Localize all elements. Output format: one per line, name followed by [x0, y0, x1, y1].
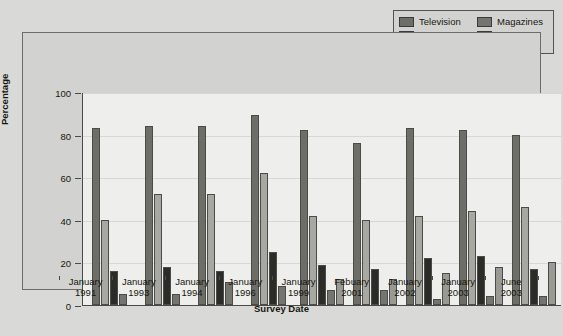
x-axis-tick-label-line: 2003 — [485, 287, 538, 298]
legend-item-label: Magazines — [497, 17, 543, 26]
x-axis-tick-label-line: Febuary — [325, 276, 378, 287]
x-axis-tick-mark — [538, 276, 539, 280]
legend-item-magazines[interactable]: Magazines — [477, 15, 543, 28]
x-axis-tick-label-line: 1999 — [272, 287, 325, 298]
y-axis-tick-mark — [75, 136, 81, 137]
x-axis-tick-label-line: 1991 — [59, 287, 112, 298]
x-axis-tick-mark — [165, 276, 166, 280]
x-axis-tick-mark — [59, 276, 60, 280]
x-axis-tick-label-line: 1994 — [165, 287, 218, 298]
x-axis-tick-mark — [485, 276, 486, 280]
x-axis-tick-mark — [432, 276, 433, 280]
x-axis-tick-label-line: January — [165, 276, 218, 287]
y-axis-tick-mark — [75, 263, 81, 264]
x-axis-tick-mark — [219, 276, 220, 280]
y-axis-label: Percentage — [0, 74, 10, 125]
x-axis-tick-label: January1993 — [112, 276, 165, 298]
y-axis-tick-label: 60 — [31, 173, 71, 184]
x-axis-tick-label-line: January — [272, 276, 325, 287]
x-axis-tick-label-line: 2002 — [378, 287, 431, 298]
y-axis-tick-label: 40 — [31, 216, 71, 227]
legend-item-television[interactable]: Television — [399, 15, 472, 28]
bar-group — [508, 93, 561, 305]
x-axis-tick-mark — [272, 276, 273, 280]
x-axis-tick-label-line: January — [378, 276, 431, 287]
x-axis-tick-label: January2003 — [432, 276, 485, 298]
page-footnote — [334, 327, 563, 336]
bar-internet[interactable] — [548, 262, 556, 305]
bar-group — [295, 93, 348, 305]
y-axis-tick-label: 80 — [31, 131, 71, 142]
x-axis-tick-label: June2003 — [485, 276, 538, 298]
x-axis-tick-label: January1991 — [59, 276, 112, 298]
y-axis-tick-mark — [75, 93, 81, 94]
x-axis-label: Survey Date — [0, 303, 563, 314]
plot-area — [82, 93, 561, 306]
x-axis-tick-label: January1994 — [165, 276, 218, 298]
x-axis-tick-mark — [325, 276, 326, 280]
legend-item-label: Television — [419, 17, 461, 26]
x-axis-tick-label: January2002 — [378, 276, 431, 298]
x-axis-tick-label: Febuary2001 — [325, 276, 378, 298]
bar-group — [349, 93, 402, 305]
x-axis-tick-labels: January1991January1993January1994January… — [59, 276, 538, 298]
bar-group — [189, 93, 242, 305]
x-axis-tick-label-line: January — [219, 276, 272, 287]
x-axis-tick-label: January1996 — [219, 276, 272, 298]
bar-group — [455, 93, 508, 305]
y-axis-tick-label: 100 — [31, 88, 71, 99]
x-axis-tick-label-line: 1996 — [219, 287, 272, 298]
legend-swatch-icon — [477, 17, 492, 27]
bar-group — [402, 93, 455, 305]
legend-swatch-icon — [399, 17, 414, 27]
x-axis-tick-mark — [378, 276, 379, 280]
bar-group — [242, 93, 295, 305]
chart-frame: Percentage 020406080100 — [22, 32, 541, 290]
y-axis-tick-mark — [75, 221, 81, 222]
x-axis-tick-label-line: January — [112, 276, 165, 287]
x-axis-tick-label-line: 1993 — [112, 287, 165, 298]
x-axis-tick-label-line: 2001 — [325, 287, 378, 298]
x-axis-tick-label-line: 2003 — [432, 287, 485, 298]
bar-group — [83, 93, 136, 305]
y-axis-tick-mark — [75, 178, 81, 179]
bar-groups — [83, 93, 561, 305]
x-axis-tick-label: January1999 — [272, 276, 325, 298]
x-axis-tick-mark — [112, 276, 113, 280]
x-axis-tick-label-line: January — [59, 276, 112, 287]
bar-group — [136, 93, 189, 305]
y-axis-tick-label: 20 — [31, 258, 71, 269]
x-axis-tick-label-line: January — [432, 276, 485, 287]
x-axis-tick-label-line: June — [485, 276, 538, 287]
